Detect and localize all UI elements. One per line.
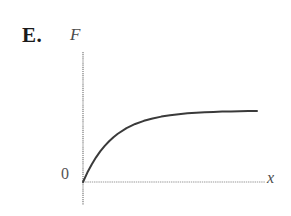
- plot-area: [0, 0, 291, 216]
- figure-container: E. F x 0: [0, 0, 291, 216]
- saturation-curve: [83, 111, 257, 182]
